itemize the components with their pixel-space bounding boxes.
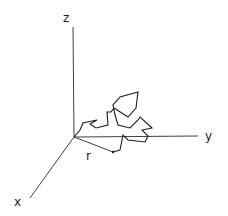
random-walk-diagram: z y x r: [0, 0, 228, 216]
random-walk-path: [74, 92, 152, 152]
y-axis: [74, 136, 198, 137]
x-axis: [30, 137, 74, 198]
x-axis-label: x: [14, 195, 21, 209]
displacement-label: r: [86, 149, 91, 163]
y-axis-label: y: [205, 129, 212, 143]
z-axis: [73, 27, 74, 137]
displacement-vector-r: [74, 137, 113, 152]
z-axis-label: z: [63, 11, 69, 25]
